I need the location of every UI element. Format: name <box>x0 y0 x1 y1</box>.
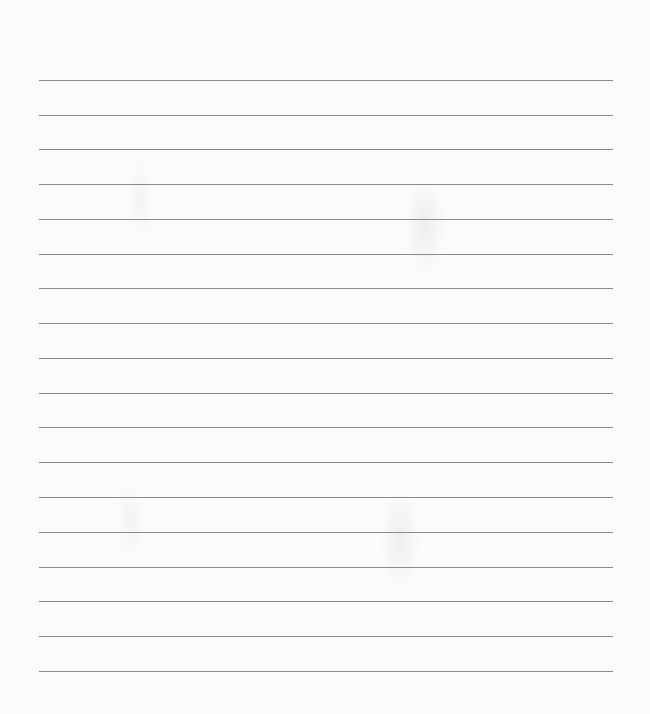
ruled-line <box>39 358 613 359</box>
ruled-line <box>39 323 613 324</box>
ruled-line <box>39 462 613 463</box>
ruled-line <box>39 393 613 394</box>
ruled-line <box>39 567 613 568</box>
ruled-line <box>39 497 613 498</box>
lined-paper-page <box>0 0 650 714</box>
ruled-line <box>39 184 613 185</box>
ruled-line <box>39 219 613 220</box>
ruled-line <box>39 601 613 602</box>
ruled-line <box>39 115 613 116</box>
ruled-line <box>39 149 613 150</box>
ruled-line <box>39 532 613 533</box>
ruled-line <box>39 288 613 289</box>
ruled-line <box>39 254 613 255</box>
ruled-line <box>39 427 613 428</box>
ruled-line <box>39 671 613 672</box>
ruled-line <box>39 80 613 81</box>
ruled-line <box>39 636 613 637</box>
